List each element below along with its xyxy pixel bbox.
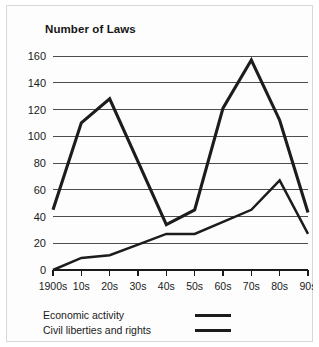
y-axis-tick-label: 60 <box>34 184 46 196</box>
y-axis-labels-group: 020406080100120140160 <box>28 50 46 276</box>
data-series-group <box>53 60 308 270</box>
y-axis-tick-label: 100 <box>28 130 46 142</box>
legend-swatch-economic-activity <box>195 314 231 317</box>
x-axis-tick-label: 30s <box>130 280 147 292</box>
x-axis-group <box>53 270 308 276</box>
x-axis-tick-label: 90s <box>300 280 313 292</box>
legend-swatch-civil-liberties <box>195 329 231 332</box>
x-axis-tick-label: 70s <box>243 280 260 292</box>
y-axis-tick-label: 140 <box>28 77 46 89</box>
x-axis-tick-label: 20s <box>101 280 118 292</box>
x-axis-labels-group: 1900s10s20s30s40s50s60s70s80s90s <box>39 280 313 292</box>
legend-item-civil-liberties: Civil liberties and rights <box>43 323 293 338</box>
x-axis-tick-label: 80s <box>271 280 288 292</box>
gridlines-group <box>53 56 308 243</box>
chart-frame: Number of Laws 020406080100120140160 190… <box>6 5 313 342</box>
chart-screenshot: Number of Laws 020406080100120140160 190… <box>0 0 319 347</box>
page-title: Number of Laws <box>45 23 136 35</box>
series-line-civil-liberties <box>53 180 308 270</box>
series-line-economic-activity <box>53 60 308 225</box>
x-axis-tick-label: 1900s <box>39 280 68 292</box>
legend-label-economic-activity: Economic activity <box>43 308 124 323</box>
y-axis-tick-label: 20 <box>34 237 46 249</box>
y-axis-tick-label: 160 <box>28 50 46 62</box>
y-axis-tick-label: 40 <box>34 211 46 223</box>
x-axis-tick-label: 60s <box>215 280 232 292</box>
chart-legend: Economic activity Civil liberties and ri… <box>43 308 293 338</box>
legend-item-economic-activity: Economic activity <box>43 308 293 323</box>
y-axis-tick-label: 0 <box>40 264 46 276</box>
x-axis-tick-label: 10s <box>73 280 90 292</box>
y-axis-tick-label: 120 <box>28 104 46 116</box>
x-axis-tick-label: 40s <box>158 280 175 292</box>
plot-area: 020406080100120140160 1900s10s20s30s40s5… <box>21 48 313 298</box>
line-chart-svg: 020406080100120140160 1900s10s20s30s40s5… <box>21 48 313 298</box>
x-axis-tick-label: 50s <box>186 280 203 292</box>
legend-label-civil-liberties: Civil liberties and rights <box>43 323 151 338</box>
y-axis-tick-label: 80 <box>34 157 46 169</box>
